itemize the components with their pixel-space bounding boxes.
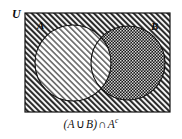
caption-set-a-complement: A: [108, 118, 115, 130]
universe-label: U: [12, 7, 22, 21]
circle-a-label: A: [36, 19, 44, 31]
intersection-symbol: ∩: [97, 118, 108, 130]
circle-b-label: B: [150, 20, 158, 32]
venn-diagram-figure: U A B (A∪B)∩Ac: [0, 0, 182, 139]
union-symbol: ∪: [75, 118, 86, 130]
figure-caption: (A∪B)∩Ac: [0, 116, 182, 131]
complement-superscript: c: [115, 116, 119, 125]
caption-set-a: A: [68, 118, 75, 130]
